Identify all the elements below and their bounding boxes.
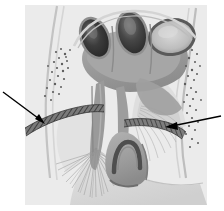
anatomical-illustration-svg (0, 0, 224, 211)
figure-root (0, 0, 224, 211)
